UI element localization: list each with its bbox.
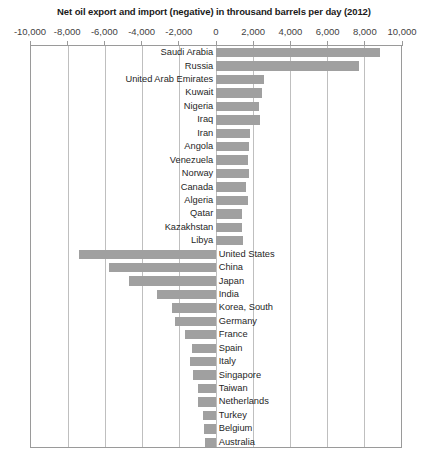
bar xyxy=(79,250,216,259)
category-label: Kuwait xyxy=(185,86,215,99)
bar-row: United States xyxy=(31,248,401,261)
bar-row: China xyxy=(31,261,401,274)
bar-row: Qatar xyxy=(31,207,401,220)
category-label: Libya xyxy=(191,234,215,247)
bar xyxy=(216,129,250,138)
category-label: Norway xyxy=(182,167,216,180)
category-label: Korea, South xyxy=(217,301,273,314)
category-label: Australia xyxy=(217,436,255,449)
bar-row: Singapore xyxy=(31,368,401,381)
category-label: France xyxy=(217,328,248,341)
category-label: Iraq xyxy=(197,113,215,126)
category-label: Spain xyxy=(217,342,243,355)
category-label: Angola xyxy=(184,140,215,153)
x-tick-label-8: 6,000 xyxy=(316,26,340,37)
bar xyxy=(216,48,380,57)
bar xyxy=(175,317,216,326)
chart-title: Net oil export and import (negative) in … xyxy=(0,6,428,17)
category-label: Venezuela xyxy=(170,154,215,167)
bar xyxy=(193,370,216,379)
bar xyxy=(205,438,216,447)
bar-row: Saudi Arabia xyxy=(31,46,401,59)
bar-row: Russia xyxy=(31,59,401,72)
bar xyxy=(216,61,359,70)
bar-row: United Arab Emirates xyxy=(31,73,401,86)
bar xyxy=(192,344,216,353)
bar-row: Australia xyxy=(31,436,401,449)
category-label: Germany xyxy=(217,315,257,328)
bar xyxy=(216,75,264,84)
x-tick-label-3: -4,000 xyxy=(128,26,155,37)
bar-row: Italy xyxy=(31,355,401,368)
bar-row: Taiwan xyxy=(31,382,401,395)
category-label: Italy xyxy=(217,355,236,368)
bar-row: Kuwait xyxy=(31,86,401,99)
bar-row: Iran xyxy=(31,127,401,140)
bar xyxy=(203,411,216,420)
bar xyxy=(190,357,216,366)
x-tick-label-2: -6,000 xyxy=(91,26,118,37)
plot-area: Saudi ArabiaRussiaUnited Arab EmiratesKu… xyxy=(30,45,402,448)
x-tick-label-0: -10,000 xyxy=(14,26,46,37)
category-label: Qatar xyxy=(190,207,215,220)
x-tick-label-6: 2,000 xyxy=(241,26,265,37)
bar-row: Angola xyxy=(31,140,401,153)
category-label: Canada xyxy=(181,181,216,194)
category-label: India xyxy=(217,288,239,301)
x-tick-label-10: 10,000 xyxy=(387,26,416,37)
bar-row: Netherlands xyxy=(31,395,401,408)
bar xyxy=(216,182,246,191)
x-tick-label-4: -2,000 xyxy=(165,26,192,37)
category-label: Belgium xyxy=(217,422,253,435)
bar-row: Libya xyxy=(31,234,401,247)
category-label: Singapore xyxy=(217,369,261,382)
bar xyxy=(129,276,216,285)
category-label: Turkey xyxy=(217,409,247,422)
bar-row: France xyxy=(31,328,401,341)
bar-row: Nigeria xyxy=(31,100,401,113)
bar xyxy=(109,263,216,272)
category-label: Russia xyxy=(185,60,215,73)
category-label: Japan xyxy=(217,275,244,288)
category-label: Saudi Arabia xyxy=(161,46,216,59)
bar-row: Turkey xyxy=(31,409,401,422)
x-tick-label-9: 8,000 xyxy=(353,26,377,37)
category-label: Nigeria xyxy=(184,100,215,113)
bar-row: Canada xyxy=(31,180,401,193)
bar xyxy=(157,290,216,299)
bar-row: Belgium xyxy=(31,422,401,435)
bar-row: Kazakhstan xyxy=(31,221,401,234)
category-label: Kazakhstan xyxy=(165,221,216,234)
bar xyxy=(172,303,216,312)
bar xyxy=(216,209,242,218)
bar-row: Norway xyxy=(31,167,401,180)
bar-rows: Saudi ArabiaRussiaUnited Arab EmiratesKu… xyxy=(31,46,401,447)
bar xyxy=(216,142,249,151)
chart-container: Net oil export and import (negative) in … xyxy=(0,0,428,456)
bar xyxy=(216,169,249,178)
bar xyxy=(216,236,243,245)
category-label: United States xyxy=(217,248,275,261)
bar xyxy=(204,424,216,433)
bar-row: Algeria xyxy=(31,194,401,207)
bar xyxy=(198,397,216,406)
bar xyxy=(216,223,242,232)
bar xyxy=(216,115,260,124)
bar xyxy=(185,330,216,339)
x-tick-label-5: 0 xyxy=(213,26,218,37)
bar xyxy=(216,102,259,111)
bar-row: Iraq xyxy=(31,113,401,126)
bar xyxy=(216,155,248,164)
x-tick-label-1: -8,000 xyxy=(54,26,81,37)
category-label: Netherlands xyxy=(217,395,269,408)
category-label: United Arab Emirates xyxy=(125,73,215,86)
x-axis-tick-labels: -10,000-8,000-6,000-4,000-2,00002,0004,0… xyxy=(0,26,428,42)
category-label: Iran xyxy=(197,127,215,140)
category-label: China xyxy=(217,261,243,274)
category-label: Taiwan xyxy=(217,382,248,395)
bar xyxy=(198,384,217,393)
bar-row: Korea, South xyxy=(31,301,401,314)
bar-row: India xyxy=(31,288,401,301)
category-label: Algeria xyxy=(184,194,215,207)
bar xyxy=(216,196,248,205)
